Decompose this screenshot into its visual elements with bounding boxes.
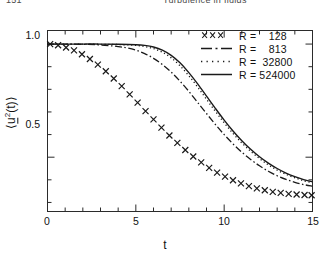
- legend-item-3: R = 524000: [199, 68, 317, 81]
- y-axis-title-text: ⟨u2(t)⟩: [4, 96, 18, 128]
- legend-label-2: R = 32800: [239, 56, 293, 68]
- x-tick-label-10: 10: [209, 215, 239, 227]
- y-axis-title: ⟨u2(t)⟩: [3, 73, 18, 153]
- dotted-line-icon: [199, 55, 239, 68]
- legend-item-2: R = 32800: [199, 55, 317, 68]
- figure-page: 151 Turbulence in fluids 1.0 0.5 0 5 10 …: [0, 0, 328, 259]
- x-tick-label-5: 5: [121, 215, 151, 227]
- legend-label-1: R = 813: [239, 43, 287, 55]
- y-tick-label-1: 1.0: [6, 29, 40, 41]
- legend-item-0: R = 128: [199, 29, 317, 42]
- legend-label-3: R = 524000: [239, 69, 296, 81]
- solid-line-icon: [199, 68, 239, 81]
- x-tick-label-0: 0: [32, 215, 62, 227]
- x-tick-label-15: 15: [298, 215, 328, 227]
- legend: R = 128 R = 813 R = 32800: [199, 29, 317, 81]
- legend-item-1: R = 813: [199, 42, 317, 55]
- x-axis-title: t: [150, 238, 180, 252]
- dash-dot-line-icon: [199, 42, 239, 55]
- chart-figure: 1.0 0.5 0 5 10 15 ⟨u2(t)⟩ t: [0, 0, 328, 259]
- legend-label-0: R = 128: [239, 30, 287, 42]
- cross-markers-icon: [199, 29, 239, 42]
